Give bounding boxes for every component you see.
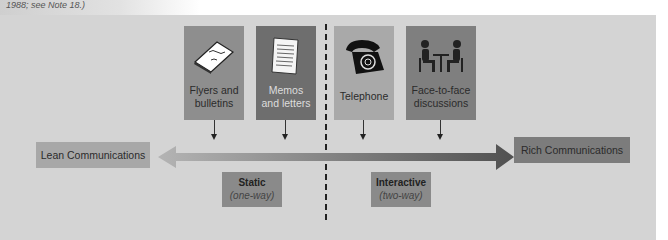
rich-communications-label: Rich Communications	[514, 137, 630, 163]
card-memos-letters: Memos and letters	[256, 26, 316, 120]
card-face-to-face: Face-to-face discussions	[406, 26, 476, 120]
meeting-icon	[406, 34, 476, 78]
richness-continuum-arrow	[158, 140, 514, 174]
flyer-icon	[184, 34, 244, 78]
interactive-tag: Interactive (two-way)	[371, 172, 431, 207]
static-interactive-divider	[325, 24, 327, 220]
card-label: Memos and letters	[256, 84, 316, 109]
card-label: Telephone	[334, 90, 394, 103]
card-telephone: Telephone	[334, 26, 394, 120]
down-arrow-memos	[285, 120, 286, 134]
lean-communications-label: Lean Communications	[36, 142, 150, 168]
memo-icon	[256, 34, 316, 78]
card-label: Face-to-face discussions	[406, 84, 476, 109]
telephone-icon	[334, 34, 394, 78]
card-flyers-bulletins: Flyers and bulletins	[184, 26, 244, 120]
down-arrow-flyers	[214, 120, 215, 134]
card-label: Flyers and bulletins	[184, 84, 244, 109]
diagram-panel	[0, 15, 656, 240]
down-arrow-telephone	[363, 120, 364, 134]
static-tag: Static (one-way)	[222, 172, 282, 207]
down-arrow-face	[440, 120, 441, 134]
figure-caption: 1988; see Note 18.)	[6, 0, 85, 10]
